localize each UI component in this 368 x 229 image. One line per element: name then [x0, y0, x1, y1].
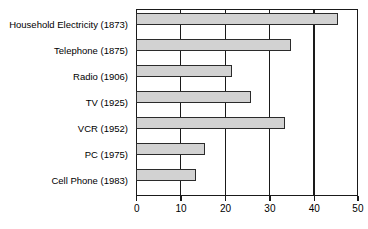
xtick-label-30: 30: [255, 203, 285, 215]
category-label: Telephone (1875): [0, 45, 128, 56]
bar-tv: [136, 91, 251, 103]
category-label: TV (1925): [0, 97, 128, 108]
xtick-label-20: 20: [211, 203, 241, 215]
bar-vcr: [136, 117, 285, 129]
category-label: VCR (1952): [0, 123, 128, 134]
bar-chart: Household Electricity (1873) Telephone (…: [0, 0, 368, 229]
category-label: Radio (1906): [0, 71, 128, 82]
bar-telephone: [136, 39, 291, 51]
category-label: PC (1975): [0, 149, 128, 160]
xtick-20: [225, 196, 226, 201]
xtick-label-0: 0: [122, 203, 152, 215]
xtick-label-40: 40: [299, 203, 329, 215]
category-axis-labels: Household Electricity (1873) Telephone (…: [0, 9, 132, 196]
bar-household-electricity: [136, 13, 338, 25]
bar-pc: [136, 143, 205, 155]
xtick-0: [136, 196, 137, 201]
xtick-50: [357, 196, 358, 201]
xtick-label-50: 50: [343, 203, 368, 215]
xtick-40: [314, 196, 315, 201]
xtick-30: [269, 196, 270, 201]
xtick-label-10: 10: [166, 203, 196, 215]
bar-radio: [136, 65, 232, 77]
bar-cell-phone: [136, 169, 196, 181]
category-label: Household Electricity (1873): [0, 19, 128, 30]
bars-layer: [136, 9, 358, 196]
xtick-10: [180, 196, 181, 201]
category-label: Cell Phone (1983): [0, 175, 128, 186]
